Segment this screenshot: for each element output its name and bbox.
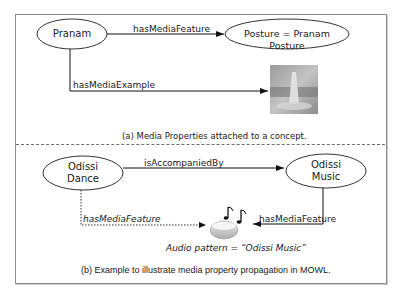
is-accompanied-by-edge-label: isAccompaniedBy [144,158,224,169]
odissi-dance-label-line2: Dance [43,173,123,185]
audio-icon [210,207,246,239]
has-media-feature-edge-label: hasMediaFeature [133,24,210,35]
odissi-dance-label-line1: Odissi [43,161,123,173]
audio-pattern-label: Audio pattern = “Odissi Music” [166,243,306,254]
caption-a: (a) Media Properties attached to a conce… [122,131,307,141]
caption-b: (b) Example to illustrate media property… [81,265,331,275]
has-media-example-edge-label: hasMediaExample [73,80,155,91]
posture-node-label: Posture = Pranam Posture [225,28,349,52]
propagated-has-media-feature-label: hasMediaFeature [83,214,161,225]
has-media-feature-edge-label-b: hasMediaFeature [259,214,336,225]
odissi-music-label-line1: Odissi [286,159,366,171]
pranam-node-label: Pranam [37,28,107,40]
media-example-image [270,65,318,114]
odissi-music-label-line2: Music [286,171,366,183]
